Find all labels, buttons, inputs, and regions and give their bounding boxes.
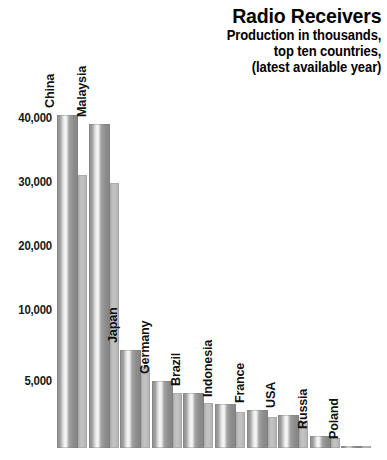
bar-front-face	[89, 124, 110, 448]
bar-front-face	[57, 115, 78, 448]
bar-side-panel	[362, 446, 371, 448]
bar-china: China	[57, 115, 87, 448]
bar-label-malaysia: Malaysia	[74, 66, 89, 117]
bar-front-face	[183, 393, 204, 448]
bar-side-panel	[141, 367, 150, 448]
bar-label-indonesia: Indonesia	[200, 340, 215, 397]
bar-indonesia: Indonesia	[215, 404, 245, 448]
bar-france: France	[247, 410, 277, 448]
bar-front-face	[152, 381, 173, 448]
bar-label-germany: Germany	[137, 321, 152, 374]
bar-front-face	[341, 446, 362, 448]
bar-label-china: China	[42, 74, 57, 108]
bar-label-poland: Poland	[326, 398, 341, 439]
bar-label-japan: Japan	[105, 307, 120, 342]
bar-front-face	[215, 404, 236, 448]
bar-side-panel	[173, 393, 182, 448]
bar-side-panel	[268, 417, 277, 448]
bar-label-usa: USA	[263, 381, 278, 407]
bar-side-panel	[78, 175, 87, 448]
bars-layer: ChinaMalaysiaJapanGermanyBrazilIndonesia…	[0, 0, 387, 460]
bar-front-face	[247, 410, 268, 448]
bar-side-panel	[236, 412, 245, 448]
bar-side-panel	[331, 438, 340, 448]
plot-area: 40,00030,00020,00010,0005,000 ChinaMalay…	[0, 0, 387, 460]
bar-label-russia: Russia	[295, 389, 310, 429]
bar-malaysia: Malaysia	[89, 124, 119, 448]
radio-receivers-bar-chart: Radio Receivers Production in thousands,…	[0, 0, 387, 460]
bar-brazil: Brazil	[183, 393, 213, 448]
bar-label-brazil: Brazil	[168, 353, 183, 386]
bar-germany: Germany	[152, 381, 182, 448]
bar-side-panel	[204, 403, 213, 448]
bar-label-france: France	[232, 363, 247, 403]
bar-poland: Poland	[341, 446, 371, 448]
